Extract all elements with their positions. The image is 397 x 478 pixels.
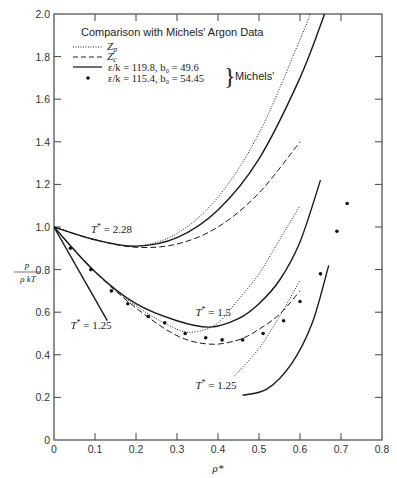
x-tick-label: 0.5 (252, 443, 267, 455)
annotation-label: T* = 2.28 (91, 222, 133, 235)
svg-text:ρ kT: ρ kT (19, 274, 37, 284)
x-tick-label: 0.1 (88, 443, 103, 455)
x-tick-label: 0.4 (211, 443, 226, 455)
curve-line (54, 14, 310, 246)
y-tick-labels: 00.20.40.60.81.01.21.41.61.82.0 (35, 8, 50, 446)
y-tick-label: 0.6 (35, 306, 50, 318)
data-point (241, 338, 245, 342)
data-point (126, 302, 130, 306)
y-tick-label: 2.0 (35, 8, 50, 20)
legend-title: Comparison with Michels' Argon Data (81, 26, 264, 38)
y-tick-label: 1.4 (35, 136, 50, 148)
annotation-label: T* = 1.25 (70, 318, 112, 331)
annotation-label: T* = 1.25 (195, 378, 237, 391)
legend-solid-label: ε/k = 119.8, b₀ = 49.6 (108, 62, 199, 73)
x-axis-label: ρ* (212, 462, 224, 474)
x-tick-label: 0.8 (375, 443, 390, 455)
svg-text:p: p (24, 260, 30, 270)
y-tick-label: 0.2 (35, 391, 50, 403)
x-tick-label: 0 (51, 443, 57, 455)
x-tick-label: 0.3 (170, 443, 185, 455)
data-point (319, 272, 323, 276)
data-point (298, 300, 302, 304)
legend-group-label: Michels' (235, 70, 274, 82)
y-tick-label: 1.6 (35, 93, 50, 105)
data-point (89, 268, 93, 272)
data-point (345, 202, 349, 206)
data-point (110, 289, 114, 293)
curve-line (54, 180, 321, 327)
data-point (261, 332, 265, 336)
annotation-label: T* = 1.5 (195, 305, 231, 318)
y-tick-label: 1.0 (35, 221, 50, 233)
curve-line (54, 14, 325, 246)
data-point (282, 319, 286, 323)
curve-line (243, 265, 329, 395)
y-tick-label: 0 (44, 434, 50, 446)
data-point (335, 229, 339, 233)
x-tick-label: 0.2 (129, 443, 144, 455)
legend: Comparison with Michels' Argon Data Zp Z… (73, 26, 274, 89)
data-point (163, 321, 167, 325)
y-tick-label: 0.8 (35, 264, 50, 276)
x-tick-label: 0.7 (334, 443, 349, 455)
y-tick-label: 1.8 (35, 51, 50, 63)
data-point (69, 247, 73, 251)
data-point (147, 315, 151, 319)
y-tick-label: 0.4 (35, 349, 50, 361)
x-tick-labels: 00.10.20.30.40.50.60.70.8 (51, 443, 389, 455)
data-point (220, 338, 224, 342)
data-point (183, 332, 187, 336)
chart-canvas: 00.10.20.30.40.50.60.70.8 00.20.40.60.81… (0, 0, 397, 478)
svg-text:}: } (224, 63, 236, 89)
data-point (204, 336, 208, 340)
x-tick-label: 0.6 (293, 443, 308, 455)
legend-dot-label: ε/k = 115.4, b₀ = 54.45 (108, 73, 204, 84)
y-tick-label: 1.2 (35, 178, 50, 190)
